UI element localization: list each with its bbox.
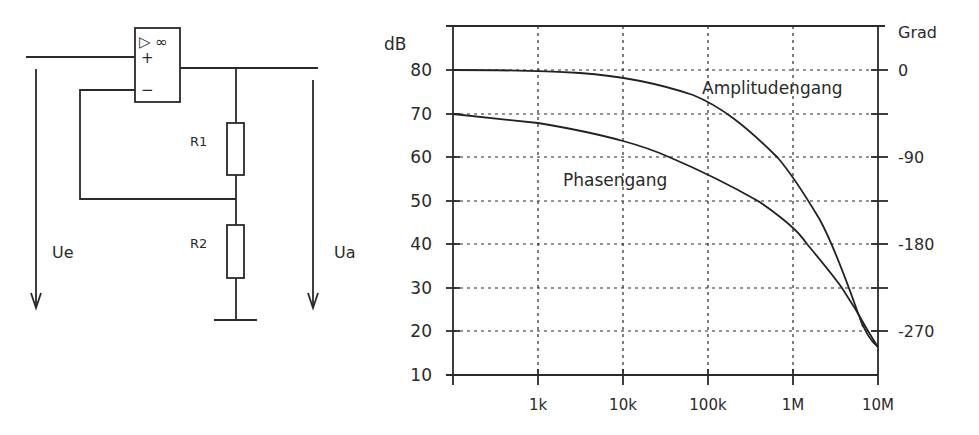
horizontal-gridlines bbox=[453, 70, 878, 331]
opamp-minus-label: − bbox=[141, 81, 154, 99]
opamp-plus-label: + bbox=[141, 49, 154, 67]
ue-label: Ue bbox=[52, 243, 74, 262]
r2-label: R2 bbox=[190, 236, 207, 251]
y-tick-label: 70 bbox=[410, 104, 432, 124]
y-tick-label: 80 bbox=[410, 60, 432, 80]
y-tick-label: 30 bbox=[410, 278, 432, 298]
y-tick-label: 60 bbox=[410, 147, 432, 167]
y-tick-label: 10 bbox=[410, 365, 432, 385]
amplitude-curve bbox=[453, 70, 878, 347]
y-tick-label: 20 bbox=[410, 321, 432, 341]
bottom-axis-ticks bbox=[538, 369, 793, 385]
x-tick-label: 10k bbox=[609, 396, 637, 414]
right-axis-ticks bbox=[871, 70, 888, 331]
ua-label: Ua bbox=[334, 243, 356, 262]
resistor-r2 bbox=[227, 225, 244, 278]
feedback-wire bbox=[80, 90, 236, 199]
y2-tick-label: -270 bbox=[898, 322, 934, 341]
r1-label: R1 bbox=[190, 134, 207, 149]
left-axis-title: dB bbox=[384, 34, 406, 54]
y-tick-label: 40 bbox=[410, 234, 432, 254]
figure-canvas: ▷ ∞ + − R1 R2 Ue Ua bbox=[0, 0, 979, 435]
x-tick-label: 1M bbox=[782, 396, 805, 414]
bode-plot: dB Grad 80 70 60 50 40 30 20 10 0 -90 -1… bbox=[384, 23, 937, 414]
y-tick-label: 50 bbox=[410, 191, 432, 211]
circuit-diagram: ▷ ∞ + − R1 R2 Ue Ua bbox=[26, 28, 356, 320]
x-tick-label: 1k bbox=[529, 396, 548, 414]
y2-tick-label: -180 bbox=[898, 235, 934, 254]
y2-tick-label: 0 bbox=[898, 61, 908, 80]
right-axis-title: Grad bbox=[898, 23, 937, 42]
phase-label: Phasengang bbox=[563, 170, 667, 190]
x-tick-label: 100k bbox=[689, 396, 727, 414]
x-tick-label: 10M bbox=[862, 396, 894, 414]
resistor-r1 bbox=[227, 123, 244, 175]
y2-tick-label: -90 bbox=[898, 148, 924, 167]
phase-curve bbox=[453, 114, 878, 347]
amplitude-label: Amplitudengang bbox=[702, 78, 843, 98]
